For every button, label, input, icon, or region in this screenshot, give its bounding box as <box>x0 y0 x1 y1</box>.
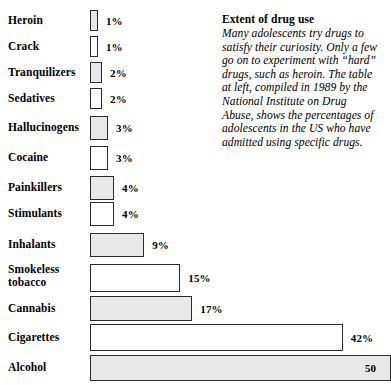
bar-value-label: 2% <box>110 93 127 105</box>
bar <box>90 10 98 31</box>
bar <box>90 264 180 292</box>
side-note-body: Many adolescents try drugs to satisfy th… <box>222 27 380 149</box>
bar-category-label: Hallucinogens <box>8 121 79 134</box>
bar-value-label: 4% <box>122 208 139 220</box>
bar <box>90 233 144 257</box>
bar-category-label: Painkillers <box>8 181 62 194</box>
bar <box>90 146 108 170</box>
bar <box>90 202 114 226</box>
bar-category-label: Sedatives <box>8 92 55 105</box>
bar <box>90 296 192 321</box>
bar-value-label: 4% <box>122 182 139 194</box>
bar-category-label: Alcohol <box>8 361 46 374</box>
bar-category-label: Inhalants <box>8 238 56 251</box>
bar-value-label: 3% <box>116 152 133 164</box>
bar-category-label: Tranquilizers <box>8 66 76 79</box>
bar-value-label: 1% <box>106 15 123 27</box>
bar-value-label: 15% <box>188 272 210 284</box>
bar <box>90 116 108 140</box>
bar-value-label: 1% <box>106 41 123 53</box>
bar <box>90 324 343 351</box>
bar <box>90 88 102 109</box>
side-note-title: Extent of drug use <box>222 12 380 26</box>
bar-value-label: 17% <box>200 303 222 315</box>
bar-category-label: Cocaine <box>8 151 48 164</box>
bar-value-label: 2% <box>110 67 127 79</box>
bar <box>90 355 391 381</box>
bar-category-label: Crack <box>8 40 39 53</box>
bar-category-label: Smokeless tobacco <box>8 263 59 288</box>
bar-category-label: Cannabis <box>8 302 55 315</box>
bar-value-label: 3% <box>116 122 133 134</box>
bar-value-label: 9% <box>152 239 169 251</box>
bar <box>90 36 98 57</box>
bar-value-label: 50 <box>365 362 376 374</box>
bar <box>90 62 102 83</box>
side-note: Extent of drug use Many adolescents try … <box>222 12 380 149</box>
bar-value-label: 42% <box>351 332 373 344</box>
bar-category-label: Cigarettes <box>8 331 59 344</box>
bar-category-label: Stimulants <box>8 207 62 220</box>
bar-category-label: Heroin <box>8 14 43 27</box>
bar <box>90 176 114 200</box>
